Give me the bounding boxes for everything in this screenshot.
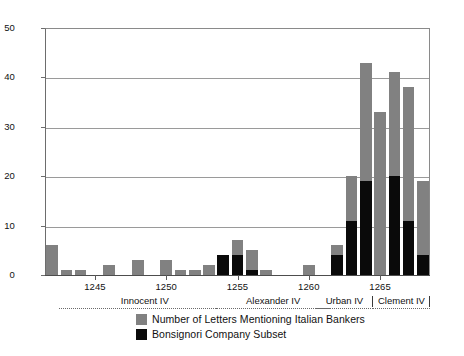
legend-label-subset: Bonsignori Company Subset <box>152 328 286 340</box>
period-band-alexander-iv: Alexander IV <box>216 296 330 309</box>
bar-subset <box>417 255 429 275</box>
legend-swatch-total-icon <box>136 314 147 325</box>
bar-subset <box>217 255 229 275</box>
bar-total <box>189 270 201 275</box>
bar-total <box>260 270 272 275</box>
period-dotted-line <box>216 308 330 309</box>
bar-chart: 01020304050 12451250125512601265 Innocen… <box>0 0 464 356</box>
chart-legend: Number of Letters Mentioning Italian Ban… <box>136 312 365 342</box>
x-tick-mark <box>166 275 167 280</box>
bar-total <box>61 270 73 275</box>
period-label: Clement IV <box>373 295 430 307</box>
x-tick-label: 1245 <box>75 281 115 292</box>
period-band-clement-iv: Clement IV <box>373 296 430 309</box>
period-band-innocent-iv: Innocent IV <box>59 296 230 309</box>
period-label: Innocent IV <box>59 295 230 307</box>
x-tick-mark <box>380 275 381 280</box>
bar-subset <box>389 176 401 275</box>
bar-total <box>374 112 386 275</box>
period-bracket-right-icon <box>429 296 430 307</box>
bar-subset <box>403 221 415 275</box>
x-tick-mark <box>95 275 96 280</box>
bar-subset <box>232 255 244 275</box>
period-dotted-line <box>59 308 230 309</box>
legend-swatch-subset-icon <box>136 329 147 340</box>
period-band-urban-iv: Urban IV <box>316 296 373 309</box>
bar-total <box>103 265 115 275</box>
bar-subset <box>246 270 258 275</box>
bar-total <box>160 260 172 275</box>
bar-total <box>75 270 87 275</box>
x-tick-label: 1265 <box>360 281 400 292</box>
x-tick-label: 1250 <box>146 281 186 292</box>
bar-total <box>46 245 58 275</box>
x-tick-mark <box>309 275 310 280</box>
bar-subset <box>360 181 372 275</box>
bar-total <box>132 260 144 275</box>
bar-subset <box>331 255 343 275</box>
period-label: Urban IV <box>316 295 373 307</box>
legend-label-total: Number of Letters Mentioning Italian Ban… <box>152 313 365 325</box>
bar-total <box>175 270 187 275</box>
legend-item-subset: Bonsignori Company Subset <box>136 327 365 341</box>
legend-item-total: Number of Letters Mentioning Italian Ban… <box>136 312 365 326</box>
period-dotted-line <box>373 308 430 309</box>
bar-total <box>303 265 315 275</box>
x-tick-label: 1255 <box>218 281 258 292</box>
period-label: Alexander IV <box>216 295 330 307</box>
period-dotted-line <box>316 308 373 309</box>
x-tick-mark <box>238 275 239 280</box>
x-tick-label: 1260 <box>289 281 329 292</box>
bar-subset <box>346 221 358 275</box>
bar-total <box>203 265 215 275</box>
